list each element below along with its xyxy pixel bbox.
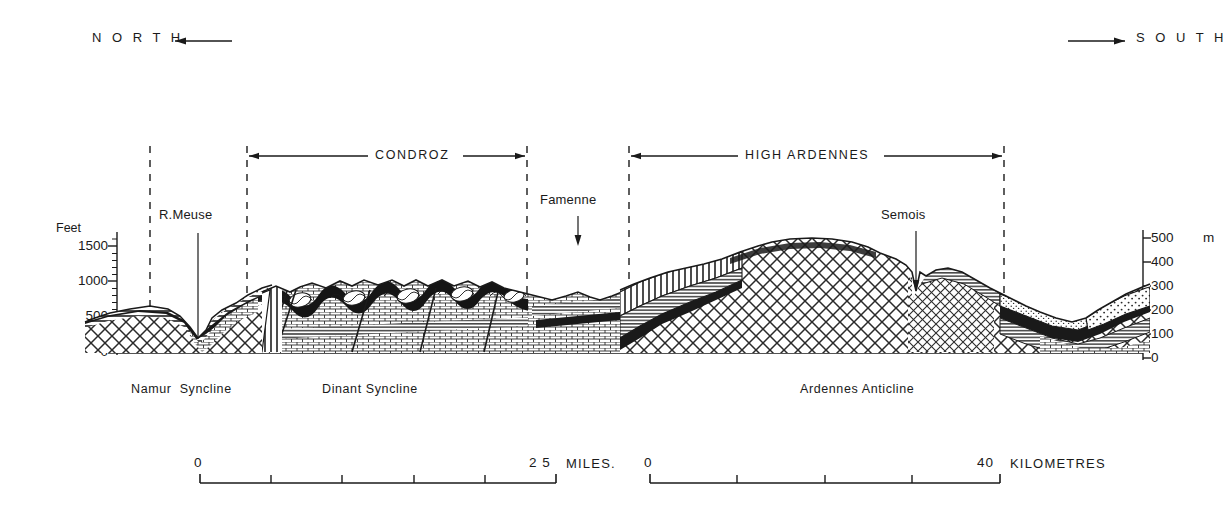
miles-scale-bar (200, 474, 556, 483)
cross-section-artwork (0, 0, 1229, 530)
region-bracket-high-ardennes (631, 153, 1002, 159)
dinant-syncline-fold-belt (255, 275, 640, 360)
pointer-arrow-famenne (575, 216, 582, 246)
region-bracket-condroz (249, 153, 525, 159)
north-arrow-icon (175, 38, 232, 45)
kilometres-scale-bar (650, 474, 1000, 483)
geological-cross-section-figure: N O R T H S O U T H CONDROZ HIGH ARDENNE… (0, 0, 1229, 530)
south-arrow-icon (1068, 38, 1125, 45)
ardennes-anticline-block (615, 230, 1160, 360)
